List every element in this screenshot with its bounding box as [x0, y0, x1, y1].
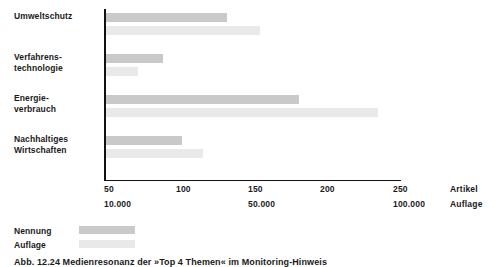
bar-nennung-umweltschutz — [106, 13, 227, 22]
tick-label-artikel-100: 100 — [176, 184, 191, 194]
bar-nennung-verfahrenstechnologie — [106, 54, 163, 63]
tick-label-artikel-150: 150 — [248, 184, 263, 194]
category-label-energieverbrauch: Energie- verbrauch — [14, 93, 56, 114]
tick-label-artikel-250: 250 — [393, 184, 408, 194]
legend-swatch-nennung — [79, 226, 135, 234]
category-axis-line — [104, 180, 401, 181]
bar-auflage-nachhaltiges-wirtschaften — [106, 149, 203, 158]
bar-auflage-energieverbrauch — [106, 108, 378, 117]
bar-nennung-nachhaltiges-wirtschaften — [106, 136, 182, 145]
bar-nennung-energieverbrauch — [106, 95, 299, 104]
category-label-nachhaltiges-wirtschaften: Nachhaltiges Wirtschaften — [14, 134, 68, 155]
legend-label-auflage: Auflage — [14, 240, 46, 250]
tick-label-artikel-200: 200 — [320, 184, 335, 194]
legend-label-nennung: Nennung — [14, 226, 52, 236]
bar-auflage-umweltschutz — [106, 26, 260, 35]
tick-label-auflage-50000: 50.000 — [248, 199, 275, 209]
bar-auflage-verfahrenstechnologie — [106, 67, 138, 76]
tick-label-auflage-10000: 10.000 — [104, 199, 131, 209]
axis-name-artikel: Artikel — [450, 184, 478, 194]
tick-label-artikel-50: 50 — [104, 184, 114, 194]
figure-caption: Abb. 12.24 Medienresonanz der »Top 4 The… — [14, 257, 327, 267]
category-label-umweltschutz: Umweltschutz — [14, 11, 72, 22]
tick-label-auflage-100000: 100.000 — [393, 199, 425, 209]
axis-name-auflage: Auflage — [450, 199, 483, 209]
category-label-verfahrenstechnologie: Verfahrens- technologie — [14, 52, 63, 73]
legend-swatch-auflage — [79, 240, 135, 248]
